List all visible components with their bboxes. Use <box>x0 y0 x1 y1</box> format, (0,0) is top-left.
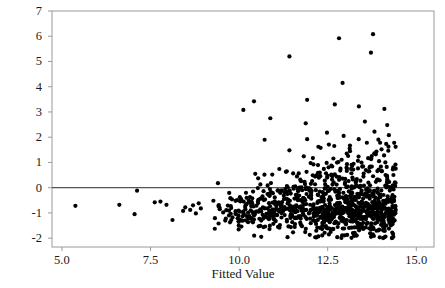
data-point <box>257 217 261 221</box>
data-point <box>385 123 389 127</box>
data-point <box>263 138 267 142</box>
data-point <box>355 206 359 210</box>
data-point <box>237 223 241 227</box>
data-point <box>335 194 339 198</box>
data-point <box>302 180 306 184</box>
data-point <box>381 202 385 206</box>
data-point <box>344 165 348 169</box>
data-point <box>341 191 345 195</box>
data-point <box>305 217 309 221</box>
data-point <box>322 167 326 171</box>
data-point <box>386 145 390 149</box>
data-point <box>325 174 329 178</box>
data-point <box>279 211 283 215</box>
x-tick-label: 12.5 <box>308 254 348 266</box>
data-point <box>380 213 384 217</box>
data-point <box>238 210 242 214</box>
data-point <box>263 197 267 201</box>
data-point <box>357 104 361 108</box>
data-point <box>237 227 241 231</box>
data-point <box>373 201 377 205</box>
data-point <box>135 189 139 193</box>
data-point <box>363 119 367 123</box>
data-point <box>341 226 345 230</box>
data-point <box>377 159 381 163</box>
data-point <box>365 222 369 226</box>
data-point <box>393 184 397 188</box>
data-point <box>216 221 220 225</box>
data-point <box>310 189 314 193</box>
data-point <box>194 211 198 215</box>
data-point <box>259 235 263 239</box>
data-point <box>227 213 231 217</box>
data-point <box>304 121 308 125</box>
data-point <box>361 221 365 225</box>
data-point <box>311 162 315 166</box>
y-tick-label: 3 <box>20 106 42 118</box>
x-tick-label: 7.5 <box>131 254 171 266</box>
data-point <box>286 224 290 228</box>
data-point <box>244 203 248 207</box>
data-point <box>296 198 300 202</box>
data-point <box>211 199 215 203</box>
data-point <box>327 143 331 147</box>
data-point <box>374 152 378 156</box>
data-point <box>336 225 340 229</box>
data-point <box>284 170 288 174</box>
data-point <box>327 201 331 205</box>
data-point <box>117 203 121 207</box>
data-point <box>386 200 390 204</box>
data-point <box>356 201 360 205</box>
data-point <box>261 189 265 193</box>
data-point <box>213 216 217 220</box>
data-point <box>251 189 255 193</box>
data-point <box>366 169 370 173</box>
data-point <box>358 179 362 183</box>
data-point <box>268 224 272 228</box>
data-point <box>241 108 245 112</box>
data-point <box>345 233 349 237</box>
data-point <box>199 206 203 210</box>
y-tick-label: 4 <box>20 81 42 93</box>
data-point <box>362 184 366 188</box>
data-point <box>250 210 254 214</box>
data-point <box>313 235 317 239</box>
data-point <box>378 235 382 239</box>
data-point <box>375 190 379 194</box>
data-point <box>368 231 372 235</box>
data-point <box>390 236 394 240</box>
data-point <box>309 182 313 186</box>
data-point <box>263 224 267 228</box>
data-point <box>252 234 256 238</box>
data-point <box>340 206 344 210</box>
data-point <box>73 204 77 208</box>
data-point <box>297 171 301 175</box>
data-point <box>362 205 366 209</box>
data-point <box>285 235 289 239</box>
data-point <box>392 141 396 145</box>
y-tick-label: 6 <box>20 30 42 42</box>
data-point <box>302 197 306 201</box>
data-point <box>356 159 360 163</box>
data-point <box>325 161 329 165</box>
data-point <box>267 193 271 197</box>
data-point <box>390 230 394 234</box>
data-point <box>270 173 274 177</box>
data-point <box>323 231 327 235</box>
data-point <box>355 217 359 221</box>
data-point <box>335 161 339 165</box>
data-point <box>282 197 286 201</box>
data-point <box>319 225 323 229</box>
data-point <box>216 181 220 185</box>
data-point <box>197 201 201 205</box>
data-point <box>349 167 353 171</box>
data-point <box>321 212 325 216</box>
data-point <box>336 221 340 225</box>
data-point <box>249 216 253 220</box>
data-point <box>388 189 392 193</box>
data-point <box>299 217 303 221</box>
data-point <box>387 180 391 184</box>
data-point <box>270 211 274 215</box>
data-point <box>321 190 325 194</box>
data-point <box>315 212 319 216</box>
